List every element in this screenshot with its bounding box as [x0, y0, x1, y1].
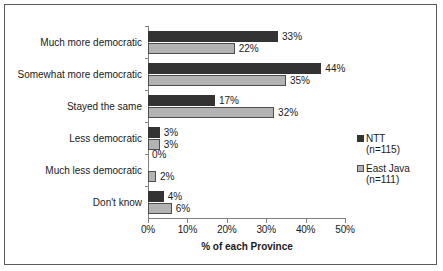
category-axis-tick [145, 186, 148, 187]
bar [148, 95, 215, 106]
bar [148, 75, 286, 86]
category-group: Don't know4%6% [148, 186, 345, 218]
category-label: Much less democratic [10, 165, 142, 176]
legend-entry-ntt: NTT (n=115) [357, 133, 435, 156]
legend-entry-east-java: East Java (n=111) [357, 163, 435, 186]
bar [148, 43, 235, 54]
bar-value-label: 33% [282, 31, 302, 42]
bar-value-label: 44% [325, 63, 345, 74]
value-axis-tick [227, 219, 228, 223]
category-axis-tick [145, 122, 148, 123]
bar-row: 32% [148, 107, 345, 118]
bar-value-label: 0% [152, 149, 166, 160]
value-axis-tick-label: 40% [286, 224, 326, 235]
bar-row: 6% [148, 203, 345, 214]
category-label: Stayed the same [10, 101, 142, 112]
value-axis-tick-label: 10% [167, 224, 207, 235]
bar-value-label: 35% [290, 75, 310, 86]
category-label: Somewhat more democratic [10, 69, 142, 80]
bar-value-label: 6% [176, 203, 190, 214]
legend-swatch-icon-east-java [357, 165, 364, 172]
value-axis-tick-label: 50% [325, 224, 365, 235]
value-axis-tick [306, 219, 307, 223]
bar-value-label: 4% [168, 191, 182, 202]
bar [148, 203, 172, 214]
legend-sublabel-ntt: (n=115) [366, 144, 435, 156]
bar-row: 0% [148, 159, 345, 170]
legend-label-east-java: East Java [366, 163, 410, 174]
bar-value-label: 32% [278, 107, 298, 118]
category-group: Less democratic3%3% [148, 122, 345, 154]
value-axis-tick [187, 219, 188, 223]
category-group: Much less democratic0%2% [148, 154, 345, 186]
bar-row: 2% [148, 171, 345, 182]
category-label: Much more democratic [10, 37, 142, 48]
value-axis-tick-label: 0% [128, 224, 168, 235]
category-group: Much more democratic33%22% [148, 26, 345, 58]
value-axis-title: % of each Province [148, 241, 346, 252]
chart-legend: NTT (n=115) East Java (n=111) [357, 133, 435, 193]
value-axis-line [148, 218, 346, 219]
value-axis-tick-label: 30% [246, 224, 286, 235]
bar-row: 22% [148, 43, 345, 54]
bar [148, 31, 278, 42]
bar [148, 171, 156, 182]
bar-row: 33% [148, 31, 345, 42]
bar-row: 3% [148, 139, 345, 150]
value-axis-tick [266, 219, 267, 223]
chart-frame: Much more democratic33%22%Somewhat more … [4, 4, 437, 265]
category-group: Somewhat more democratic44%35% [148, 58, 345, 90]
plot-area: Much more democratic33%22%Somewhat more … [148, 26, 345, 218]
legend-swatch-icon-ntt [357, 135, 364, 142]
value-axis-tick-label: 20% [207, 224, 247, 235]
bar-row: 3% [148, 127, 345, 138]
bar [148, 107, 274, 118]
bar-row: 4% [148, 191, 345, 202]
category-axis-tick [145, 26, 148, 27]
bar-value-label: 17% [219, 95, 239, 106]
category-group: Stayed the same17%32% [148, 90, 345, 122]
bar-row: 17% [148, 95, 345, 106]
category-label: Less democratic [10, 133, 142, 144]
bar-value-label: 3% [164, 127, 178, 138]
bar-value-label: 22% [239, 43, 259, 54]
category-axis-tick [145, 90, 148, 91]
value-axis-tick [148, 219, 149, 223]
legend-sublabel-east-java: (n=111) [366, 174, 435, 186]
bar-value-label: 2% [160, 171, 174, 182]
bar-row: 35% [148, 75, 345, 86]
bar [148, 191, 164, 202]
legend-label-ntt: NTT [366, 133, 385, 144]
category-label: Don't know [10, 197, 142, 208]
bar [148, 127, 160, 138]
value-axis-tick [345, 219, 346, 223]
category-axis-tick [145, 58, 148, 59]
category-axis-tick [145, 154, 148, 155]
bar [148, 63, 321, 74]
bar-row: 44% [148, 63, 345, 74]
